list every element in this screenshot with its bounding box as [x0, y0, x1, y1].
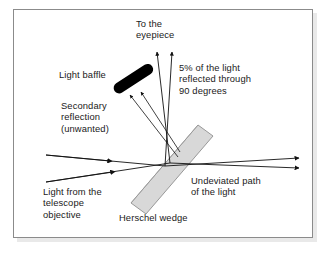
- herschel-wedge-shape: [131, 125, 213, 214]
- incoming-rays: [46, 155, 170, 182]
- label-secondary-reflection: Secondary reflection (unwanted): [61, 100, 109, 134]
- label-light-from-telescope-objective: Light from the telescope objective: [43, 186, 102, 220]
- label-light-baffle: Light baffle: [59, 69, 106, 80]
- label-herschel-wedge: Herschel wedge: [119, 212, 188, 223]
- label-five-percent-reflected: 5% of the light reflected through 90 deg…: [179, 62, 251, 96]
- figure-container: To the eyepiece 5% of the light reflecte…: [0, 0, 335, 257]
- secondary-reflection-rays: [130, 92, 180, 157]
- eyepiece-rays: [157, 52, 172, 166]
- label-to-the-eyepiece: To the eyepiece: [136, 18, 174, 41]
- label-undeviated-path: Undeviated path of the light: [191, 175, 261, 198]
- light-baffle-shape: [112, 62, 156, 96]
